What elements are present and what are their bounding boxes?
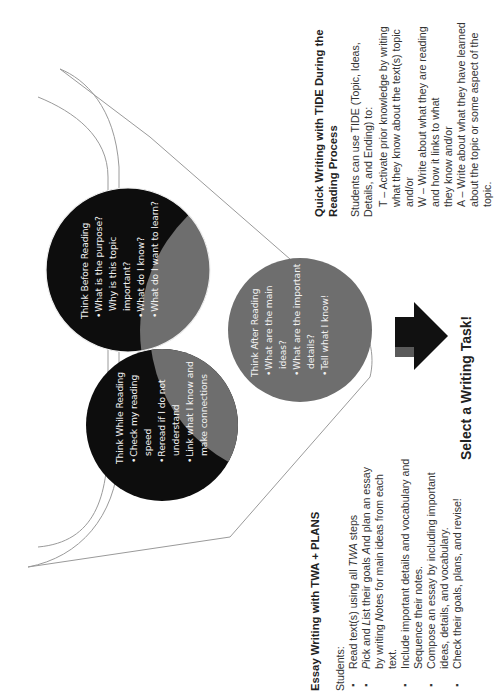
plans-list-item: Pick and List their goals And plan an es… [360,456,399,691]
tide-line: they know and/or [442,2,455,217]
tide-line: and how it links to what [429,2,442,217]
think-after-reading-title: Think After Reading [248,262,262,377]
plans-item-text: ist their goals [360,554,372,619]
think-after-item: What are the main ideas? [262,262,290,377]
arrow-head [414,302,448,370]
tide-heading-line: Quick Writing with TIDE During the [313,30,325,217]
tide-line: T – Activate prior knowledge by writing [377,2,390,217]
plans-list-item: Compose an essay by including important … [425,456,451,691]
tide-line: and/or [403,2,416,217]
tide-line: what they know about the text(s) topic [390,2,403,217]
think-while-item: Check my reading speed [127,352,155,464]
tide-heading: Quick Writing with TIDE During the Readi… [312,2,340,217]
arrow-stem-light [395,347,415,357]
tide-intro-line: Students can use TIDE (Topic, Ideas, [349,42,361,217]
plans-list-item: Read text(s) using all TWA steps [347,456,360,691]
tide-heading-line: Reading Process [327,125,339,217]
plans-list-item: Include important details and vocabulary… [399,456,425,691]
plans-item-text: Compose an essay by including important … [425,472,450,669]
plans-item-emphasis: P [360,662,372,669]
plans-item-emphasis: A [360,547,372,554]
rotated-page: Think Before Reading What is the purpose… [0,0,501,697]
tide-section: Quick Writing with TIDE During the Readi… [312,2,494,217]
think-after-item: Tell what I know! [318,262,332,377]
plans-list: Read text(s) using all TWA steps Pick an… [347,456,464,691]
think-before-item: What do I know? [134,199,148,319]
plans-item-text: steps [347,515,359,543]
tide-intro-line: Details, and Ending) to: [362,107,374,217]
plans-item-text: ick and [360,625,372,662]
plans-item-text: Read text(s) using all [347,567,359,669]
plans-item-text: Include important details and vocabulary… [399,459,424,669]
tide-line: A – Write about what they have learned [455,2,468,217]
think-while-reading-text: Think While Reading Check my reading spe… [113,352,211,464]
tide-line: about the topic or some aspect of the [468,2,481,217]
think-while-reading-title: Think While Reading [113,352,127,464]
tide-line: W – Write about what they are reading [416,2,429,217]
tide-line: topic. [481,2,494,217]
think-while-item: Link what I know and make connections [183,352,211,464]
plans-item-emphasis: L [360,620,372,626]
plans-item-text: Check their goals, plans, and revise! [451,498,463,669]
think-before-reading-title: Think Before Reading [78,199,92,319]
arrow-stem [395,317,415,347]
plans-intro: Students: [334,456,347,691]
think-after-item: What are the important details? [290,262,318,377]
plans-heading: Essay Writing with TWA + PLANS [308,456,322,691]
plans-item-emphasis: TWA [347,543,359,566]
think-after-reading-text: Think After Reading What are the main id… [248,262,332,377]
tide-intro: Students can use TIDE (Topic, Ideas, Det… [349,2,375,217]
think-before-reading-text: Think Before Reading What is the purpose… [78,199,162,319]
think-before-item: What is the purpose? Why is this topic i… [92,199,134,319]
select-writing-task-label: Select a Writing Task! [458,316,474,460]
tide-lines: T – Activate prior knowledge by writing … [377,2,494,217]
plans-item-emphasis: N [373,614,385,622]
think-while-item: Reread if I do not understand [155,352,183,464]
plans-list-item: Check their goals, plans, and revise! [451,456,464,691]
think-before-item: What do I want to learn? [148,199,162,319]
plans-section: Essay Writing with TWA + PLANS Students:… [308,456,464,691]
arrow-down-icon [395,302,448,370]
